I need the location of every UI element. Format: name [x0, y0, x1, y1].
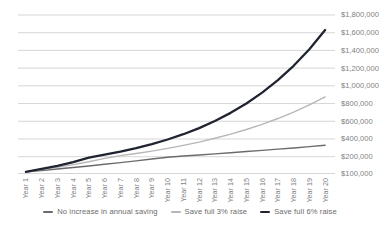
y-tick-label: $800,000 — [341, 99, 373, 108]
x-tick-label: Year 4 — [69, 178, 78, 199]
legend-item-3pct-raise: Save full 3% raise — [171, 207, 248, 216]
y-tick-label: $100,000 — [341, 169, 373, 178]
y-tick-label: $200,000 — [341, 152, 373, 161]
x-tick-label: Year 1 — [21, 178, 30, 199]
legend-line-marker-no-increase-icon — [43, 211, 53, 213]
x-tick-label: Year 6 — [100, 178, 109, 199]
series-line-2 — [26, 30, 325, 172]
y-tick-label: $1,600,000 — [341, 28, 379, 37]
x-tick-label: Year 13 — [210, 178, 219, 203]
x-tick-label: Year 3 — [53, 178, 62, 199]
x-tick-label: Year 14 — [226, 178, 235, 203]
y-tick-label: $1,800,000 — [341, 10, 379, 19]
savings-growth-chart: $1,800,000$1,600,000$1,400,000$1,200,000… — [0, 0, 380, 226]
legend-label-no-increase: No increase in annual saving — [57, 207, 157, 216]
series-lines-group — [26, 30, 325, 172]
y-tick-label: $1,000,000 — [341, 81, 379, 90]
chart-plot-area: $1,800,000$1,600,000$1,400,000$1,200,000… — [0, 0, 380, 206]
x-tick-label: Year 10 — [163, 178, 172, 203]
legend-line-marker-6pct-raise-icon — [260, 211, 270, 213]
x-axis-labels-group: Year 1Year 2Year 3Year 4Year 5Year 6Year… — [21, 178, 329, 203]
series-line-0 — [26, 145, 325, 172]
y-axis-labels-group: $1,800,000$1,600,000$1,400,000$1,200,000… — [341, 10, 379, 178]
x-tick-label: Year 16 — [258, 178, 267, 203]
x-tick-label: Year 12 — [195, 178, 204, 203]
x-tick-label: Year 20 — [321, 178, 330, 203]
x-tick-label: Year 17 — [273, 178, 282, 203]
y-tick-label: $400,000 — [341, 134, 373, 143]
legend-label-6pct-raise: Save full 6% raise — [274, 207, 337, 216]
chart-legend: No increase in annual saving Save full 3… — [0, 207, 380, 216]
legend-label-3pct-raise: Save full 3% raise — [185, 207, 248, 216]
gridlines-group — [18, 15, 335, 174]
series-line-1 — [26, 97, 325, 172]
x-tick-label: Year 2 — [37, 178, 46, 199]
x-tick-label: Year 15 — [242, 178, 251, 203]
x-tick-label: Year 11 — [179, 178, 188, 202]
legend-item-no-increase: No increase in annual saving — [43, 207, 157, 216]
y-tick-label: $600,000 — [341, 117, 373, 126]
y-tick-label: $1,200,000 — [341, 64, 379, 73]
x-tick-label: Year 7 — [116, 178, 125, 199]
legend-item-6pct-raise: Save full 6% raise — [260, 207, 337, 216]
x-tick-label: Year 18 — [289, 178, 298, 203]
y-tick-label: $1,400,000 — [341, 46, 379, 55]
legend-line-marker-3pct-raise-icon — [171, 211, 181, 213]
x-tick-label: Year 5 — [84, 178, 93, 199]
x-tick-label: Year 8 — [132, 178, 141, 199]
x-tick-label: Year 9 — [147, 178, 156, 199]
x-tick-label: Year 19 — [305, 178, 314, 203]
